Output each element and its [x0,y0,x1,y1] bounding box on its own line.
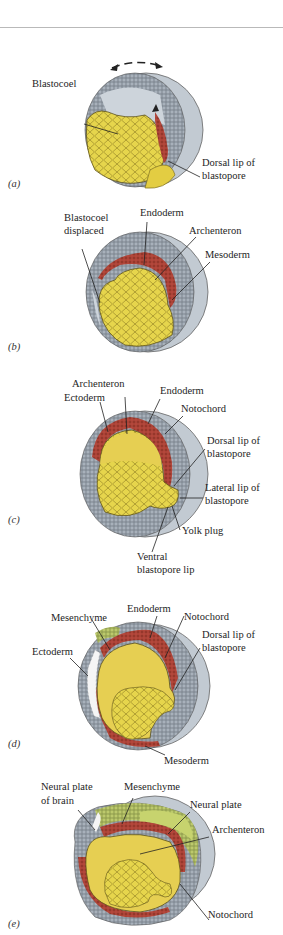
panel-d: Endoderm Mesenchyme Notochord Dorsal lip… [0,598,283,768]
embryo-diagram-b [0,200,283,360]
label-archenteron: Archenteron [72,378,124,390]
label-dorsal-lip-2: blastopore [207,448,251,460]
label-mesoderm: Mesoderm [164,755,209,767]
label-neural-plate-brain: Neural plate [41,781,93,793]
label-neural-plate-brain-2: of brain [41,795,74,807]
label-ventral-lip-2: blastopore lip [137,564,194,576]
label-mesenchyme: Mesenchyme [124,781,180,793]
panel-tag-a: (a) [8,178,20,189]
label-endoderm: Endoderm [127,603,171,615]
label-ectoderm: Ectoderm [32,646,73,658]
label-dorsal-lip: Dorsal lip of [202,629,255,641]
label-notochord: Notochord [184,611,229,623]
panel-tag-d: (d) [8,738,20,749]
panel-tag-e: (e) [8,918,20,929]
panel-e: Neural plate of brain Mesenchyme Neural … [0,772,283,935]
label-mesenchyme: Mesenchyme [51,612,107,624]
label-lateral-lip: Lateral lip of [205,482,260,494]
label-notochord: Notochord [181,403,226,415]
label-dorsal-lip: Dorsal lip of [207,435,260,447]
label-dorsal-lip-2: blastopore [202,642,246,654]
panel-c: Archenteron Ectoderm Endoderm Notochord … [0,372,283,590]
label-endoderm: Endoderm [140,207,184,219]
label-dorsal-lip: Dorsal lip of [202,157,255,169]
label-notochord: Notochord [208,909,253,921]
label-blastocoel-displaced-2: displaced [64,225,104,237]
label-neural-plate: Neural plate [190,799,242,811]
label-blastocoel: Blastocoel [32,78,76,90]
label-ectoderm: Ectoderm [64,392,105,404]
embryo-diagram-d [0,598,283,768]
panel-tag-c: (c) [8,514,20,525]
label-mesoderm: Mesoderm [205,249,250,261]
panel-tag-b: (b) [8,341,20,352]
panel-b: Blastocoel displaced Endoderm Archentero… [0,200,283,360]
top-divider [0,27,283,28]
label-archenteron: Archenteron [212,824,264,836]
label-endoderm: Endoderm [160,385,204,397]
label-blastocoel-displaced: Blastocoel [64,212,108,224]
label-yolk-plug: Yolk plug [182,525,223,537]
label-dorsal-lip-2: blastopore [202,170,246,182]
label-ventral-lip: Ventral [137,551,167,563]
label-archenteron: Archenteron [189,225,241,237]
panel-a: Blastocoel Dorsal lip of blastopore (a) [0,40,283,195]
label-lateral-lip-2: blastopore [205,495,249,507]
